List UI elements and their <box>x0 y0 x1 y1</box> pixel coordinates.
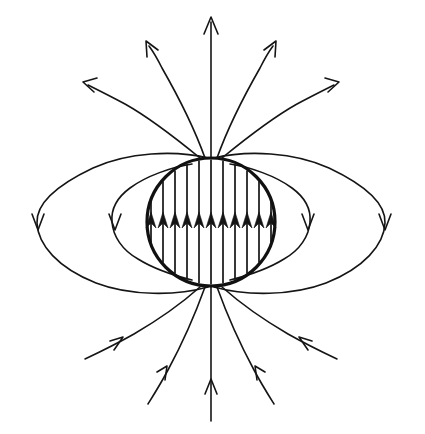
arrowhead-down-icon <box>302 214 314 230</box>
field-line-path <box>217 287 274 404</box>
field-line-top-far-left <box>83 78 200 158</box>
field-line-path <box>149 46 205 158</box>
arrowhead-up-left-icon <box>83 78 97 92</box>
open-field-lines-top <box>83 17 339 158</box>
outer-right-loop <box>214 153 391 293</box>
field-line-bottom-mid-left <box>148 287 205 404</box>
interior-arrow-2 <box>158 181 168 263</box>
field-line-path <box>148 287 205 404</box>
field-line-top-mid-right <box>217 41 276 158</box>
outer-left-loop <box>32 153 208 293</box>
field-line-path <box>37 153 208 293</box>
open-field-lines-bottom <box>85 287 337 421</box>
field-line-bottom-far-right <box>222 287 337 359</box>
field-line-path <box>222 287 337 359</box>
closed-loops-right <box>214 153 391 293</box>
interior-arrow-7 <box>218 161 228 284</box>
interior-arrow-9 <box>242 171 252 274</box>
arrowhead-up-right-icon <box>325 78 339 92</box>
interior-arrow-3 <box>170 171 180 274</box>
field-line-path <box>217 46 273 158</box>
arrowhead-up-left-icon <box>255 366 265 380</box>
field-line-path <box>214 153 385 293</box>
field-line-path <box>88 85 200 158</box>
field-line-bottom-far-left <box>85 287 200 359</box>
field-line-bottom-center <box>205 287 217 421</box>
interior-arrow-10 <box>254 181 264 263</box>
arrowhead-down-icon <box>109 214 121 230</box>
magnetic-field-figure <box>0 0 425 434</box>
field-diagram-canvas <box>0 0 425 434</box>
field-line-path <box>222 85 334 158</box>
field-line-top-far-right <box>222 78 339 158</box>
interior-arrow-5 <box>194 161 204 284</box>
arrowhead-up-right-icon <box>157 366 167 380</box>
interior-arrow-8 <box>230 164 240 280</box>
closed-loops-left <box>32 153 208 293</box>
field-line-path <box>85 287 200 359</box>
field-line-top-mid-left <box>146 41 205 158</box>
field-line-bottom-mid-right <box>217 287 274 404</box>
interior-arrow-4 <box>182 164 192 280</box>
field-line-top-center <box>204 17 218 158</box>
interior-arrow-6 <box>206 160 216 285</box>
